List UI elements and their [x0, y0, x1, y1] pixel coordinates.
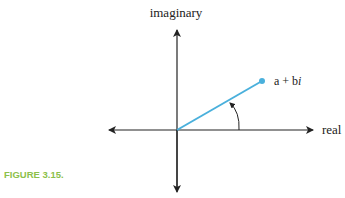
point-label: a + bi	[274, 74, 301, 88]
figure-caption: FIGURE 3.15.	[4, 169, 64, 180]
complex-plane-diagram: imaginary real a + bi FIGURE 3.15.	[0, 0, 345, 198]
point-marker	[259, 78, 265, 84]
vector-line	[177, 81, 262, 130]
real-axis-label: real	[322, 122, 342, 137]
imaginary-axis-label: imaginary	[150, 5, 203, 20]
angle-arc-icon	[230, 103, 239, 130]
